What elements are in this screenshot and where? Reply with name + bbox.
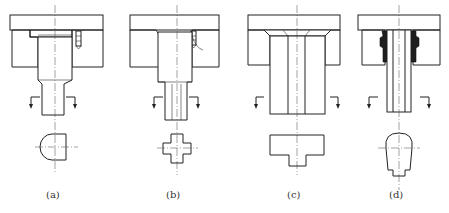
punch: [270, 36, 325, 114]
panel-c: (c): [248, 5, 340, 200]
panel-label-a: (a): [46, 189, 60, 200]
screw-icon: [76, 31, 81, 49]
panel-a: (a): [10, 5, 103, 200]
retainer-block-right: [72, 30, 103, 67]
panel-b: (b): [130, 5, 219, 200]
punch: [158, 32, 192, 120]
retainer-block-right: [325, 30, 340, 65]
top-plate: [248, 15, 340, 30]
panel-label-d: (d): [389, 189, 403, 200]
retainer-block-left: [362, 30, 385, 65]
panel-label-b: (b): [166, 189, 180, 200]
seal-left: [380, 31, 387, 62]
panel-d: (d): [358, 5, 440, 200]
seal-right: [411, 31, 419, 62]
retainer-block-left: [12, 30, 38, 67]
panel-label-c: (c): [287, 189, 301, 200]
punch-head: [264, 30, 331, 36]
retainer-block-left: [248, 30, 270, 65]
top-plate: [130, 15, 219, 30]
punch-mounting-diagram: (a) (b): [0, 0, 449, 213]
top-plate: [10, 15, 103, 30]
retainer-block-left: [130, 30, 160, 67]
